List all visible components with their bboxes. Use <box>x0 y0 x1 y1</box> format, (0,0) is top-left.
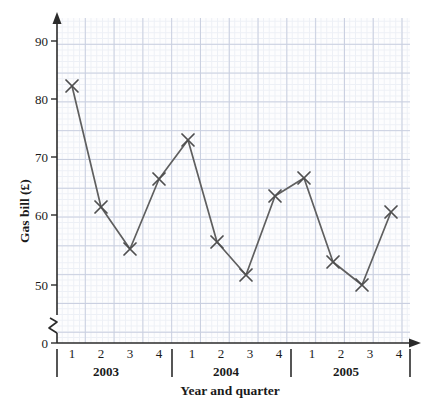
y-tick-label-90: 90 <box>14 35 48 48</box>
y-tick-label-70: 70 <box>14 151 48 164</box>
y-tick-label-0: 0 <box>14 337 48 350</box>
x-tick-label-2005-q3: 3 <box>360 347 380 360</box>
y-tick-label-60: 60 <box>14 209 48 222</box>
x-tick-label-2003-q3: 3 <box>120 347 140 360</box>
chart-container: Gas bill (£) 90 80 70 60 50 0 1 2 3 4 1 … <box>0 0 437 403</box>
y-tick-label-50: 50 <box>14 279 48 292</box>
x-axis-title: Year and quarter <box>150 383 310 399</box>
x-tick-label-2003-q1: 1 <box>62 347 82 360</box>
x-group-label-2003: 2003 <box>61 365 151 379</box>
x-group-label-2004: 2004 <box>181 365 271 379</box>
x-tick-label-2004-q4: 4 <box>269 347 289 360</box>
x-tick-label-2004-q2: 2 <box>211 347 231 360</box>
x-tick-label-2004-q3: 3 <box>240 347 260 360</box>
x-tick-label-2003-q4: 4 <box>149 347 169 360</box>
y-tick-label-80: 80 <box>14 93 48 106</box>
x-axis-arrow <box>409 339 421 348</box>
x-tick-label-2005-q2: 2 <box>331 347 351 360</box>
x-tick-label-2003-q2: 2 <box>91 347 111 360</box>
x-tick-label-2005-q4: 4 <box>389 347 409 360</box>
x-tick-label-2005-q1: 1 <box>302 347 322 360</box>
axis-break-symbol <box>49 318 57 333</box>
plot-grid-area <box>57 18 410 343</box>
x-tick-label-2004-q1: 1 <box>182 347 202 360</box>
x-group-label-2005: 2005 <box>301 365 391 379</box>
